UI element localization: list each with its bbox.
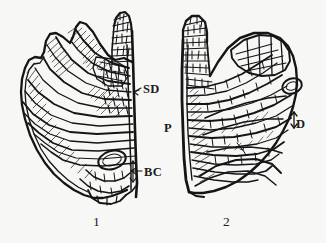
figure-number-2: 2 (223, 215, 230, 229)
label-bc: BC (144, 166, 162, 179)
label-d: D (296, 118, 305, 131)
figure-number-1: 1 (93, 215, 100, 229)
specimen-drawings (0, 0, 326, 243)
figure-plate (0, 0, 326, 243)
label-sd: SD (143, 83, 160, 96)
label-p: P (164, 122, 172, 135)
